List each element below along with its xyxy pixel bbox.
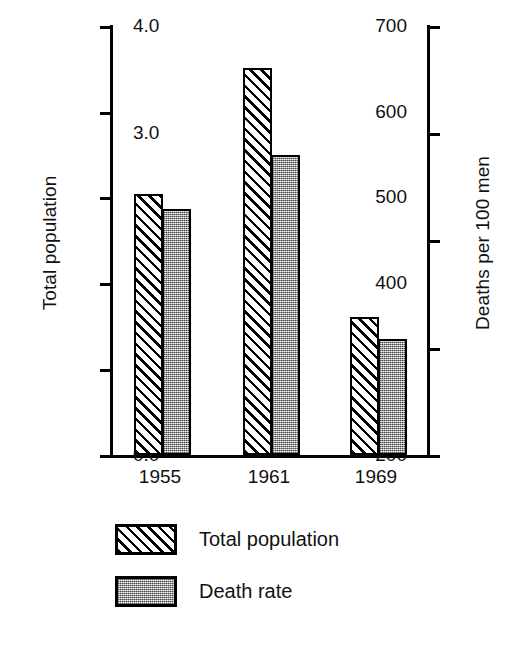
left-tick-400 bbox=[100, 283, 113, 286]
left-tick-label-500: 500 bbox=[375, 187, 407, 206]
right-tick-2 bbox=[427, 240, 440, 243]
left-tick-600 bbox=[100, 112, 113, 115]
right-tick-label-3: 3.0 bbox=[133, 123, 159, 142]
right-tick-0 bbox=[427, 455, 440, 458]
left-tick-label-400: 400 bbox=[375, 273, 407, 292]
right-tick-3 bbox=[427, 133, 440, 136]
left-tick-label-600: 600 bbox=[375, 102, 407, 121]
legend-swatch-stipple-icon bbox=[115, 576, 177, 607]
bar-chart-figure: Total population Deaths per 100 men 200 … bbox=[0, 0, 529, 654]
bar-death-rate-1961 bbox=[271, 155, 300, 455]
right-axis-title: Deaths per 100 men bbox=[472, 98, 494, 388]
chart-legend: Total population Death rate bbox=[115, 520, 339, 624]
left-tick-300 bbox=[100, 369, 113, 372]
bar-total-population-1969 bbox=[350, 317, 379, 455]
bar-death-rate-1969 bbox=[378, 339, 407, 455]
left-axis-title: Total population bbox=[39, 98, 61, 388]
left-tick-200 bbox=[100, 455, 113, 458]
bar-total-population-1955 bbox=[134, 194, 163, 455]
bar-death-rate-1955 bbox=[162, 209, 191, 455]
right-tick-1 bbox=[427, 348, 440, 351]
x-tick-label-1961: 1961 bbox=[229, 466, 309, 488]
right-tick-label-4: 4.0 bbox=[133, 16, 159, 35]
left-tick-label-700: 700 bbox=[375, 16, 407, 35]
right-tick-4 bbox=[427, 26, 440, 29]
x-tick-label-1955: 1955 bbox=[120, 466, 200, 488]
legend-swatch-hatch-icon bbox=[115, 524, 177, 555]
left-tick-500 bbox=[100, 197, 113, 200]
legend-item-total-population: Total population bbox=[115, 520, 339, 558]
bar-total-population-1961 bbox=[243, 68, 272, 455]
legend-label-death-rate: Death rate bbox=[199, 580, 292, 603]
plot-area: 200 300 400 500 600 700 0.0 1.0 2.0 3.0 … bbox=[110, 25, 430, 458]
left-tick-700 bbox=[100, 26, 113, 29]
legend-label-total-population: Total population bbox=[199, 528, 339, 551]
x-tick-label-1969: 1969 bbox=[336, 466, 416, 488]
legend-item-death-rate: Death rate bbox=[115, 572, 339, 610]
